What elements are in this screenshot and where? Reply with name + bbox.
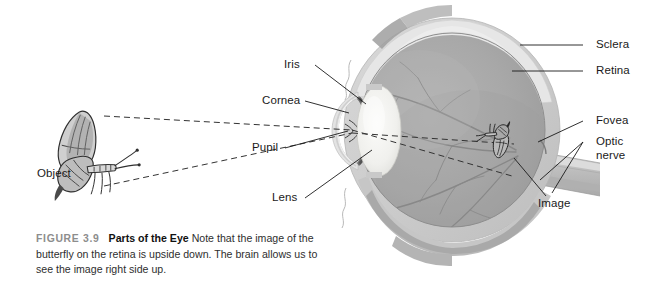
figure-caption: FIGURE 3.9Parts of the Eye Note that the… (36, 231, 336, 278)
label-iris: Iris (284, 58, 300, 71)
label-pupil: Pupil (252, 141, 278, 154)
figure-parts-of-the-eye: Iris Cornea Pupil Lens Object Sclera Ret… (0, 0, 659, 297)
lens-structure (357, 84, 401, 178)
label-optic-nerve-line1: Optic (596, 135, 623, 148)
figure-title: Parts of the Eye (109, 232, 189, 244)
label-lens: Lens (272, 191, 297, 204)
figure-number: FIGURE 3.9 (36, 233, 100, 244)
label-fovea: Fovea (596, 114, 628, 127)
label-object: Object (37, 167, 71, 180)
label-retina: Retina (596, 64, 630, 77)
label-optic-nerve-line2: nerve (596, 149, 625, 162)
label-sclera: Sclera (596, 38, 629, 51)
label-cornea: Cornea (262, 94, 300, 107)
butterfly-icon (55, 111, 141, 201)
label-image: Image (538, 197, 570, 210)
